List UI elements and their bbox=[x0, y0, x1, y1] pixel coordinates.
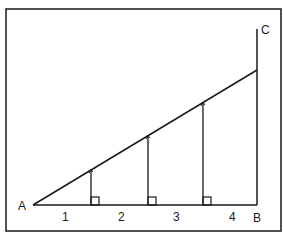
label-point-c: C bbox=[261, 23, 270, 37]
segment-label-1: 1 bbox=[62, 210, 69, 224]
segment-label-4: 4 bbox=[229, 210, 236, 224]
perpendicular-3 bbox=[201, 103, 211, 206]
right-angle-marker-icon bbox=[91, 197, 99, 205]
label-point-a: A bbox=[18, 199, 26, 213]
right-angle-marker-icon bbox=[203, 197, 211, 205]
label-point-b: B bbox=[253, 211, 261, 225]
segment-label-3: 3 bbox=[173, 210, 180, 224]
right-angle-marker-icon bbox=[148, 197, 156, 205]
perpendicular-2 bbox=[146, 136, 156, 206]
perpendicular-1 bbox=[89, 170, 99, 206]
hypotenuse-line bbox=[33, 70, 257, 205]
diagram-canvas: A B C 1 2 3 4 bbox=[0, 0, 283, 239]
diagram-frame bbox=[6, 9, 281, 231]
segment-label-2: 2 bbox=[118, 210, 125, 224]
